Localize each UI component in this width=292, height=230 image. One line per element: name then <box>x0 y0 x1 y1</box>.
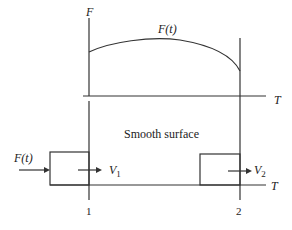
arrowheads <box>44 167 252 174</box>
arrowhead-icon <box>44 167 50 173</box>
position-2-label: 2 <box>236 205 242 217</box>
velocity-2-label: V2 <box>254 163 266 179</box>
block-1 <box>50 152 89 185</box>
velocity-1-label: V1 <box>109 163 121 179</box>
curve-label: F(t) <box>157 22 177 36</box>
t-axis-label-top: T <box>274 93 282 107</box>
bottom-scene <box>19 152 266 185</box>
force-label: F(t) <box>13 151 33 165</box>
block-2 <box>200 154 240 185</box>
f-axis-label: F <box>85 5 94 19</box>
arrowhead-icon <box>246 168 252 174</box>
t-axis-label-bottom: T <box>271 179 279 193</box>
arrowhead-icon <box>96 167 102 173</box>
position-1-label: 1 <box>86 205 92 217</box>
impulse-diagram: F F(t) T Smooth surface F(t) V1 V2 T 1 2 <box>0 0 292 230</box>
surface-label: Smooth surface <box>124 127 199 141</box>
force-curve <box>89 39 240 71</box>
